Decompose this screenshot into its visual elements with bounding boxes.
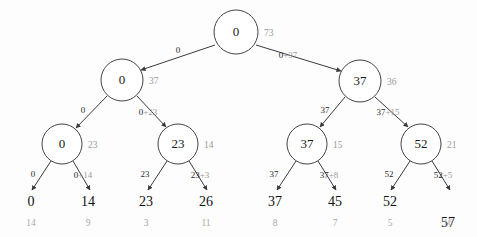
tree-leaf[interactable]: 014 [26,194,36,228]
node-size-label: 14 [204,140,214,150]
leaf-value: 0 [28,194,35,209]
edge-label: 23+3 [191,170,210,180]
leaf-value: 52 [383,194,397,209]
leaf-size-label: 16 [443,218,453,228]
leaves-group: 01414923326113784575255716 [26,194,455,230]
leaf-size-label: 9 [86,218,91,228]
tree-edge [277,161,296,190]
edge-label: 0 [81,105,86,115]
edge-label: 0+37 [279,50,298,60]
edge-label: 23 [141,169,151,179]
edge-label: 52 [385,169,394,179]
node-size-label: 15 [333,140,343,150]
node-value: 0 [59,136,66,151]
edge-labels-group: 00+3700+233737+1500+142323+33737+85252+5 [31,45,453,180]
tree-leaf[interactable]: 525 [383,194,397,228]
node-size-label: 21 [447,140,457,150]
leaf-value: 37 [268,194,282,209]
leaf-size-label: 14 [26,218,36,228]
node-value: 52 [415,136,428,151]
tree-diagram: 0730373736023231437155221 01414923326113… [0,0,477,237]
node-value: 37 [354,73,368,88]
tree-node[interactable]: 023 [42,124,98,164]
edge-label: 0+23 [139,107,158,117]
leaf-value: 45 [328,194,342,209]
edge-label: 37 [270,169,280,179]
tree-leaf[interactable]: 5716 [441,215,455,230]
edge-label: 52+5 [434,170,453,180]
tree-node[interactable]: 037 [101,59,159,101]
nodes-group: 0730373736023231437155221 [42,10,457,164]
tree-edge [256,45,341,71]
node-value: 0 [119,72,126,87]
edge-label: 0+14 [74,170,93,180]
leaf-size-label: 8 [273,218,278,228]
edge-label: 0 [31,169,36,179]
node-value: 37 [301,136,315,151]
node-size-label: 73 [264,28,274,38]
leaf-size-label: 5 [388,218,393,228]
node-size-label: 23 [88,140,98,150]
node-value: 23 [172,136,185,151]
tree-leaf[interactable]: 149 [81,194,95,228]
leaf-value: 26 [199,194,213,209]
edge-label: 37+8 [320,170,339,180]
node-size-label: 36 [387,77,397,87]
tree-leaf[interactable]: 457 [328,194,342,228]
tree-edge [391,161,410,190]
leaf-size-label: 7 [333,218,338,228]
tree-leaf[interactable]: 378 [268,194,282,228]
tree-node[interactable]: 2314 [158,124,214,164]
tree-node[interactable]: 5221 [401,124,457,164]
tree-edge [148,161,167,190]
edge-label: 0 [176,45,181,55]
node-size-label: 37 [149,76,159,86]
leaf-size-label: 3 [144,218,149,228]
tree-node[interactable]: 3715 [287,124,343,164]
tree-leaf[interactable]: 2611 [199,194,213,228]
tree-node[interactable]: 3736 [339,60,397,102]
edge-label: 37+15 [376,107,400,117]
node-value: 0 [233,24,240,39]
leaf-value: 23 [139,194,153,209]
leaf-size-label: 11 [201,218,210,228]
leaf-value: 14 [81,194,95,209]
edge-label: 37 [321,105,331,115]
tree-leaf[interactable]: 233 [139,194,153,228]
